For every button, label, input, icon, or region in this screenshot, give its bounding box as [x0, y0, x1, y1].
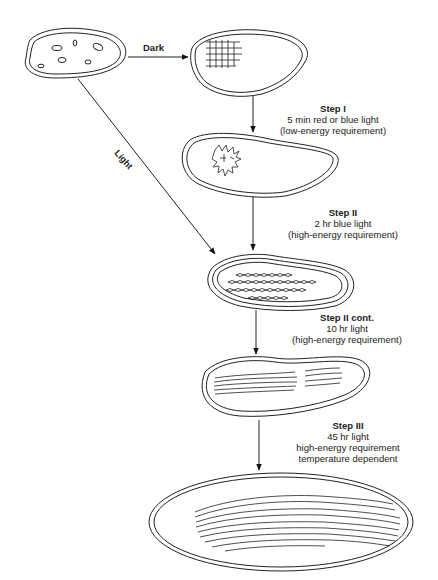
thylakoid-stacks [214, 368, 342, 394]
plastid-development-diagram [0, 0, 438, 580]
step-i-title: Step I [258, 103, 408, 114]
step-i-line-2: (low-energy requirement) [258, 125, 408, 136]
chloroplast [149, 473, 413, 571]
step-ii-cont-label: Step II cont. 10 hr light (high-energy r… [272, 312, 422, 345]
step-i-plastid [182, 133, 338, 197]
dark-label: Dark [143, 42, 164, 53]
step-i-label: Step I 5 min red or blue light (low-ener… [258, 103, 408, 136]
vesicle-chains [226, 274, 316, 300]
step-ii-line-1: 2 hr blue light [268, 218, 418, 229]
step-ii-cont-line-2: (high-energy requirement) [272, 334, 422, 345]
step-iii-title: Step III [273, 420, 423, 431]
etioplast [191, 30, 308, 97]
step-iii-line-3: temperature dependent [273, 453, 423, 464]
step-ii-title: Step II [268, 207, 418, 218]
step-ii-plastid [208, 254, 354, 310]
step-i-line-1: 5 min red or blue light [258, 114, 408, 125]
step-ii-line-2: (high-energy requirement) [268, 229, 418, 240]
dispersing-prolamellar-body [212, 145, 241, 176]
step-iii-label: Step III 45 hr light high-energy require… [273, 420, 423, 464]
proplastid [25, 28, 126, 78]
step-iii-line-2: high-energy requirement [273, 442, 423, 453]
step-ii-cont-plastid [202, 357, 370, 417]
step-ii-cont-title: Step II cont. [272, 312, 422, 323]
step-iii-line-1: 45 hr light [273, 431, 423, 442]
grana-thylakoids [195, 496, 400, 551]
prolamellar-body-lattice [206, 40, 242, 68]
step-ii-label: Step II 2 hr blue light (high-energy req… [268, 207, 418, 240]
step-ii-cont-line-1: 10 hr light [272, 323, 422, 334]
light-arrow [78, 79, 215, 254]
